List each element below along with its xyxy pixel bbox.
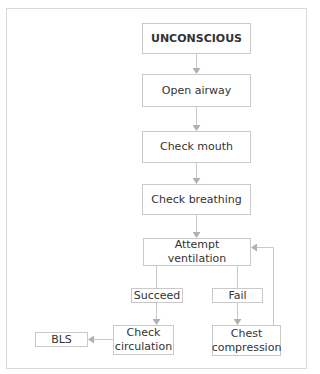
node-chest-compression-line2: compression — [212, 341, 282, 355]
node-open-airway-label: Open airway — [162, 84, 231, 98]
node-check-circulation-line1: Check — [127, 326, 161, 340]
succeed-label-text: Succeed — [134, 289, 181, 302]
node-check-circulation: Check circulation — [113, 325, 174, 355]
node-attempt-ventilation: Attempt ventilation — [143, 238, 251, 266]
node-unconscious: UNCONSCIOUS — [142, 23, 251, 54]
node-attempt-ventilation-label: Attempt ventilation — [144, 238, 250, 266]
node-bls-label: BLS — [51, 333, 72, 347]
node-check-mouth: Check mouth — [142, 131, 251, 163]
edge-label-succeed: Succeed — [131, 288, 183, 303]
node-chest-compression: Chest compression — [212, 325, 281, 356]
node-open-airway: Open airway — [142, 74, 251, 107]
node-unconscious-label: UNCONSCIOUS — [151, 32, 242, 46]
node-bls: BLS — [35, 332, 88, 347]
node-check-breathing: Check breathing — [142, 184, 251, 215]
node-check-mouth-label: Check mouth — [160, 140, 233, 154]
node-chest-compression-line1: Chest — [231, 327, 262, 341]
node-check-breathing-label: Check breathing — [151, 193, 241, 207]
node-check-circulation-line2: circulation — [115, 340, 172, 354]
fail-label-text: Fail — [228, 289, 246, 302]
edge-label-fail: Fail — [212, 288, 263, 303]
